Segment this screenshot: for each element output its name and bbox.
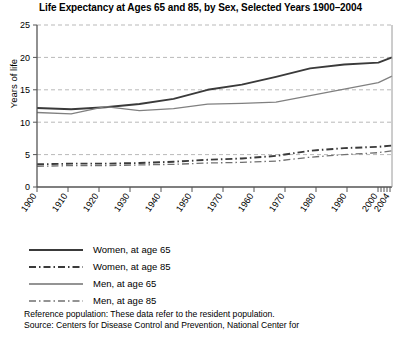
svg-text:1930: 1930	[112, 191, 132, 213]
legend-item: Men, at age 65	[28, 275, 258, 292]
svg-text:1900: 1900	[19, 191, 39, 213]
svg-text:1940: 1940	[143, 191, 163, 213]
x-axis-labels: 1900191019201930194019501970196019701980…	[19, 191, 392, 213]
legend-item: Women, at age 65	[28, 241, 258, 258]
svg-text:1910: 1910	[50, 191, 70, 213]
legend-swatch-women-85	[28, 261, 84, 273]
svg-text:10: 10	[20, 118, 30, 128]
svg-text:0: 0	[25, 182, 30, 192]
legend-label-men-85: Men, at age 85	[93, 295, 156, 306]
y-axis-ticks: 0510152025	[20, 20, 37, 192]
legend-item: Women, at age 85	[28, 258, 258, 275]
legend-swatch-women-65	[28, 244, 84, 256]
data-series-group	[37, 57, 392, 166]
svg-text:1950: 1950	[174, 191, 194, 213]
x-axis-ticks	[37, 187, 390, 192]
chart-legend: Women, at age 65 Women, at age 85 Men, a…	[28, 241, 258, 309]
svg-text:1970: 1970	[267, 191, 287, 213]
svg-text:20: 20	[20, 53, 30, 63]
svg-text:1960: 1960	[236, 191, 256, 213]
svg-text:15: 15	[20, 85, 30, 95]
svg-text:25: 25	[20, 20, 30, 30]
legend-swatch-men-65	[28, 278, 84, 290]
svg-text:1970: 1970	[205, 191, 225, 213]
chart-container: Life Expectancy at Ages 65 and 85, by Se…	[0, 0, 401, 339]
legend-label-men-65: Men, at age 65	[93, 278, 156, 289]
svg-text:1990: 1990	[329, 191, 349, 213]
legend-swatch-men-85	[28, 295, 84, 307]
plot-area: 0510152025 19001910192019301940195019701…	[0, 0, 401, 240]
legend-label-women-85: Women, at age 85	[93, 261, 170, 272]
legend-label-women-65: Women, at age 65	[93, 244, 170, 255]
svg-text:1920: 1920	[81, 191, 101, 213]
svg-text:1980: 1980	[298, 191, 318, 213]
legend-item: Men, at age 85	[28, 292, 258, 309]
footnote-source: Source: Centers for Disease Control and …	[24, 320, 400, 331]
svg-text:5: 5	[25, 150, 30, 160]
footnote-reference-population: Reference population: These data refer t…	[24, 309, 400, 320]
footnote: Reference population: These data refer t…	[24, 309, 400, 332]
